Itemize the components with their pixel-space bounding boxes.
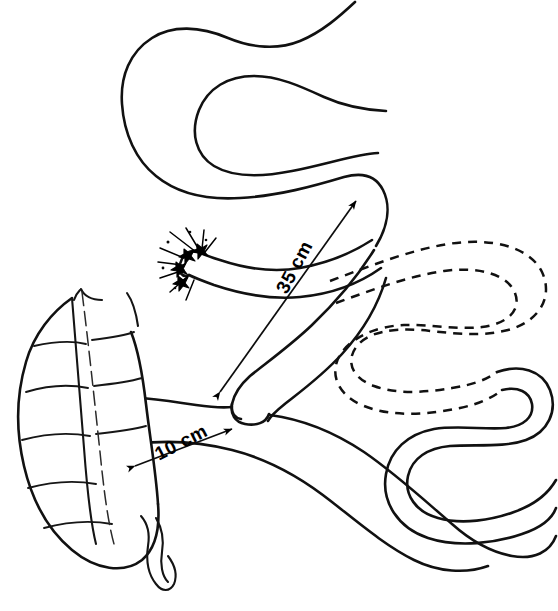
suture-fleck-1 (167, 241, 170, 244)
suture-fleck-2 (162, 267, 165, 270)
suture-fleck-5 (174, 287, 177, 290)
suture-fleck-4 (205, 239, 208, 242)
bypass-diagram-svg: 35 cm 10 cm (0, 0, 558, 611)
suture-fleck-3 (189, 231, 192, 234)
bypass-diagram-canvas: 35 cm 10 cm (0, 0, 558, 611)
